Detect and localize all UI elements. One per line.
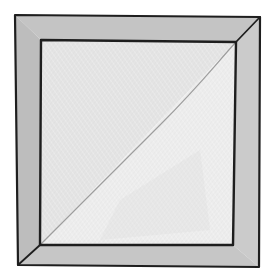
inner-square bbox=[40, 40, 236, 245]
border-top bbox=[15, 15, 260, 42]
quilt-block-illustration bbox=[0, 0, 271, 277]
border-bottom bbox=[18, 245, 259, 267]
border-right bbox=[233, 17, 260, 267]
border-left bbox=[15, 15, 41, 265]
